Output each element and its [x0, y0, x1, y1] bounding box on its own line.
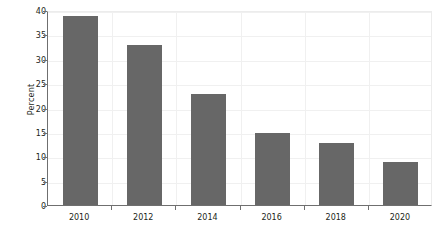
bar	[255, 133, 290, 205]
x-axis-tick-label: 2016	[261, 213, 281, 222]
bar	[383, 162, 418, 205]
gridline-vertical	[305, 12, 306, 205]
x-axis-tick-label: 2018	[326, 213, 346, 222]
gridline-horizontal	[48, 12, 431, 13]
y-axis-tick-label: 0	[0, 202, 46, 211]
y-axis-tick-label: 30	[0, 55, 46, 64]
bar	[191, 94, 226, 205]
y-axis-tick-label: 40	[0, 7, 46, 16]
gridline-vertical	[369, 12, 370, 205]
plot-area	[47, 11, 432, 206]
bar	[319, 143, 354, 205]
y-axis-tick-label: 15	[0, 128, 46, 137]
gridline-horizontal	[48, 134, 431, 135]
x-axis-tick-label: 2014	[197, 213, 217, 222]
gridline-horizontal	[48, 85, 431, 86]
bar	[127, 45, 162, 205]
x-axis-tick-mark	[368, 206, 369, 210]
gridline-horizontal	[48, 61, 431, 62]
bar-chart-figure: Percent 0510152025303540 201020122014201…	[0, 0, 446, 237]
y-axis-tick-label: 25	[0, 80, 46, 89]
x-axis-tick-label: 2020	[390, 213, 410, 222]
gridline-horizontal	[48, 36, 431, 37]
x-axis-tick-label: 2012	[133, 213, 153, 222]
x-axis-tick-mark	[304, 206, 305, 210]
gridline-horizontal	[48, 110, 431, 111]
y-axis-tick-label: 35	[0, 31, 46, 40]
gridline-horizontal	[48, 183, 431, 184]
bar	[63, 16, 98, 205]
gridline-horizontal	[48, 158, 431, 159]
y-axis-tick-label: 10	[0, 153, 46, 162]
y-axis-tick-mark	[43, 206, 47, 207]
y-axis-tick-label: 5	[0, 177, 46, 186]
x-axis-tick-mark	[240, 206, 241, 210]
x-axis-tick-mark	[175, 206, 176, 210]
gridline-vertical	[241, 12, 242, 205]
x-axis-tick-mark	[111, 206, 112, 210]
x-axis-tick-label: 2010	[69, 213, 89, 222]
gridline-vertical	[176, 12, 177, 205]
y-axis-tick-label: 20	[0, 104, 46, 113]
gridline-vertical	[112, 12, 113, 205]
